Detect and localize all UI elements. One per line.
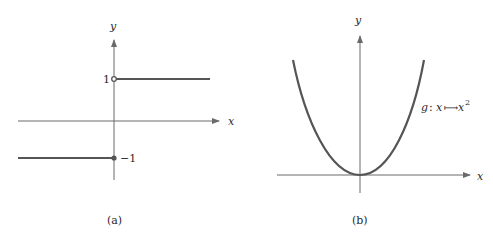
function-variable: x — [436, 101, 443, 114]
x-axis-label-b: x — [477, 170, 484, 183]
panel-b: x y g : x ⟼ x 2 (b) — [277, 14, 484, 227]
y-axis-label-a: y — [109, 20, 117, 33]
tick-label-1: 1 — [103, 73, 110, 86]
x-axis-label-a: x — [228, 115, 235, 128]
maps-to-arrow: ⟼ — [444, 102, 458, 113]
function-name: g — [421, 101, 428, 114]
function-colon: : — [429, 101, 433, 114]
caption-a: (a) — [107, 214, 122, 227]
caption-b: (b) — [352, 214, 368, 227]
tick-label-neg1: −1 — [120, 152, 136, 165]
figure: x y 1 −1 (a) x y g : x ⟼ x 2 (b) — [0, 0, 493, 238]
filled-circle-marker — [111, 155, 116, 160]
panel-a: x y 1 −1 (a) — [18, 20, 235, 227]
function-expression: x — [458, 101, 465, 114]
function-exponent: 2 — [465, 98, 470, 107]
open-circle-marker — [112, 77, 117, 82]
parabola — [293, 60, 424, 175]
y-axis-label-b: y — [354, 14, 362, 27]
function-label: g : x ⟼ x 2 — [421, 98, 470, 114]
